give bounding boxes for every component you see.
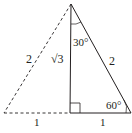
altitude-side <box>70 4 71 113</box>
label-angle-right: 60° <box>106 99 121 111</box>
label-base-left: 1 <box>34 116 40 128</box>
label-hypotenuse: 2 <box>109 54 115 68</box>
label-angle-top: 30° <box>73 36 88 48</box>
right-angle-marker <box>70 103 80 113</box>
label-altitude: √3 <box>51 52 64 66</box>
angle-arc-top <box>71 22 81 24</box>
triangle-diagram: 2 √3 2 30° 60° 1 1 <box>0 0 132 133</box>
hypotenuse-side <box>71 4 131 113</box>
label-left-side: 2 <box>26 52 32 66</box>
label-base-right: 1 <box>100 116 106 128</box>
